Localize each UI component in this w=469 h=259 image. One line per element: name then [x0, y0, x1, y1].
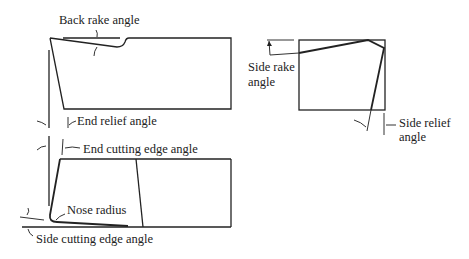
side-cutting-slant-line: [20, 217, 44, 220]
side-cutting-arrow-top-icon: [27, 208, 29, 215]
nose-radius-label: Nose radius: [67, 203, 126, 217]
side-relief-label-line1: Side relief: [399, 116, 452, 130]
side-rake-label-line1: Side rake: [248, 60, 295, 74]
back-rake-label: Back rake angle: [59, 13, 140, 27]
plan-view: End cutting edge angle Side cutting edge…: [20, 136, 231, 246]
end-cutting-arrow-left-icon: [37, 146, 46, 150]
end-relief-arrow-right-icon: [69, 121, 76, 125]
nose-radius-arrow-icon: [56, 214, 65, 220]
end-view: Side rake angle Side relief angle: [248, 40, 452, 144]
end-view-profile: [299, 40, 384, 110]
side-relief-label-line2: angle: [399, 130, 427, 144]
side-cutting-arrow-bottom-icon: [28, 229, 33, 236]
side-cutting-edge-label: Side cutting edge angle: [36, 232, 153, 246]
back-rake-arrow-top-icon: [96, 30, 97, 37]
side-view-body: [50, 38, 231, 109]
tool-angles-diagram: Back rake angle End relief angle End cut…: [0, 0, 469, 259]
end-cutting-tick: [62, 139, 63, 155]
side-relief-extension: [367, 110, 371, 131]
end-cutting-edge-label: End cutting edge angle: [83, 142, 198, 156]
back-rake-arrow-bottom-icon: [94, 47, 97, 56]
end-relief-arrow-left-icon: [37, 121, 46, 125]
side-relief-arrow-left-icon: [354, 120, 366, 127]
side-rake-extension: [270, 53, 299, 55]
end-cutting-arrow-right-icon: [65, 147, 80, 148]
end-relief-label: End relief angle: [77, 114, 157, 128]
side-view: Back rake angle End relief angle: [37, 13, 231, 128]
side-rake-label-line2: angle: [248, 75, 276, 89]
plan-divider-line: [136, 159, 143, 227]
